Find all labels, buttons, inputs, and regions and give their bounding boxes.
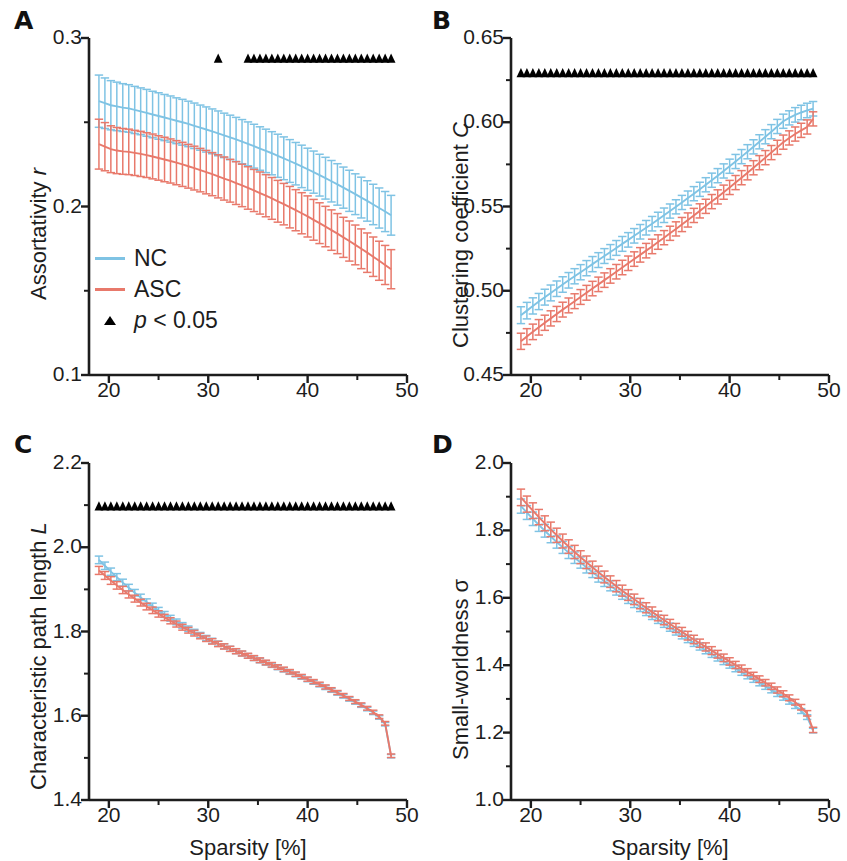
significance-triangle-icon xyxy=(648,68,657,77)
legend-color-swatch xyxy=(95,257,125,260)
significance-triangle-icon xyxy=(101,501,110,510)
significance-triangle-icon xyxy=(166,501,175,510)
significance-triangle-icon xyxy=(285,54,294,63)
significance-triangle-icon xyxy=(184,501,193,510)
significance-triangle-icon xyxy=(624,68,633,77)
significance-triangle-icon xyxy=(214,501,223,510)
significance-triangle-icon xyxy=(666,68,675,77)
series-nc xyxy=(517,102,818,324)
mean-line xyxy=(521,497,813,730)
significance-triangle-icon xyxy=(345,501,354,510)
significance-triangle-icon xyxy=(279,501,288,510)
significance-triangle-icon xyxy=(564,68,573,77)
significance-triangle-icon xyxy=(381,54,390,63)
y-tick-label: 1.0 xyxy=(424,787,504,811)
y-tick-label: 0.50 xyxy=(424,278,504,302)
significance-triangle-icon xyxy=(695,68,704,77)
significance-triangle-icon xyxy=(773,68,782,77)
significance-triangle-icon xyxy=(285,501,294,510)
significance-triangle-icon xyxy=(250,501,259,510)
significance-triangle-icon xyxy=(534,68,543,77)
significance-triangle-icon xyxy=(357,501,366,510)
significance-triangle-icon xyxy=(327,501,336,510)
significance-markers xyxy=(214,54,396,63)
significance-triangle-icon xyxy=(303,501,312,510)
significance-triangle-icon xyxy=(303,54,312,63)
significance-triangle-icon xyxy=(517,68,526,77)
y-axis-label-symbol: L xyxy=(26,522,51,534)
significance-triangle-icon xyxy=(291,501,300,510)
significance-triangle-icon xyxy=(755,68,764,77)
triangle-glyph xyxy=(104,316,116,325)
significance-triangle-icon xyxy=(642,68,651,77)
significance-triangle-icon xyxy=(523,68,532,77)
significance-triangle-icon xyxy=(202,501,211,510)
y-axis-label-b: Clustering coefficient C xyxy=(448,122,474,348)
significance-triangle-icon xyxy=(279,54,288,63)
significance-triangle-icon xyxy=(136,501,145,510)
x-tick-label: 30 xyxy=(600,803,660,827)
significance-triangle-icon xyxy=(345,54,354,63)
x-axis-label-c: Sparsity [%] xyxy=(49,835,447,861)
significance-triangle-icon xyxy=(142,501,151,510)
mean-line xyxy=(99,560,391,756)
significance-triangle-icon xyxy=(351,54,360,63)
significance-triangle-icon xyxy=(267,501,276,510)
series-nc xyxy=(95,75,396,235)
significance-triangle-icon xyxy=(749,68,758,77)
x-tick-label: 20 xyxy=(79,803,139,827)
significance-triangle-icon xyxy=(363,501,372,510)
y-tick-label: 0.2 xyxy=(2,194,82,218)
significance-triangle-icon xyxy=(540,68,549,77)
y-tick-label: 1.6 xyxy=(2,703,82,727)
series-asc xyxy=(517,112,818,350)
significance-triangle-icon xyxy=(351,501,360,510)
y-tick-label: 0.3 xyxy=(2,25,82,49)
y-axis-label-text: Clustering coefficient xyxy=(448,138,473,348)
p-value-symbol: p xyxy=(134,307,147,333)
series-nc xyxy=(95,556,396,758)
significance-triangle-icon xyxy=(737,68,746,77)
significance-triangle-icon xyxy=(297,501,306,510)
significance-triangle-icon xyxy=(309,54,318,63)
significance-triangle-icon xyxy=(106,501,115,510)
significance-triangle-icon xyxy=(809,68,818,77)
significance-triangle-icon xyxy=(600,68,609,77)
significance-triangle-icon xyxy=(582,68,591,77)
significance-triangle-icon xyxy=(130,501,139,510)
significance-triangle-icon xyxy=(244,54,253,63)
significance-triangle-icon xyxy=(725,68,734,77)
y-tick-label: 1.4 xyxy=(424,652,504,676)
x-tick-label: 40 xyxy=(700,378,760,402)
legend-item-nc[interactable]: NC xyxy=(95,243,218,274)
significance-triangle-icon xyxy=(190,501,199,510)
significance-triangle-icon xyxy=(327,54,336,63)
x-tick-label: 40 xyxy=(278,803,338,827)
y-tick-label: 0.45 xyxy=(424,362,504,386)
significance-triangle-icon xyxy=(112,501,121,510)
significance-triangle-icon xyxy=(576,68,585,77)
significance-triangle-icon xyxy=(124,501,133,510)
legend-item-asc[interactable]: ASC xyxy=(95,274,218,305)
significance-triangle-icon xyxy=(387,54,396,63)
significance-triangle-icon xyxy=(321,54,330,63)
significance-triangle-icon xyxy=(369,501,378,510)
significance-triangle-icon xyxy=(118,501,127,510)
significance-triangle-icon xyxy=(381,501,390,510)
significance-triangle-icon xyxy=(387,501,396,510)
significance-triangle-icon xyxy=(375,54,384,63)
significance-triangle-icon xyxy=(636,68,645,77)
legend-item-significance[interactable]: p < 0.05 xyxy=(95,305,218,336)
significance-triangle-icon xyxy=(256,501,265,510)
y-axis-label-c: Characteristic path length L xyxy=(26,522,52,790)
significance-triangle-icon xyxy=(273,501,282,510)
x-tick-label: 30 xyxy=(178,378,238,402)
significance-triangle-icon xyxy=(160,501,169,510)
series-asc xyxy=(95,566,396,757)
significance-markers xyxy=(517,68,818,77)
legend: NCASCp < 0.05 xyxy=(95,243,218,336)
series-asc xyxy=(517,489,818,732)
significance-triangle-icon xyxy=(196,501,205,510)
significance-triangle-icon xyxy=(339,501,348,510)
y-tick-label: 1.8 xyxy=(2,619,82,643)
